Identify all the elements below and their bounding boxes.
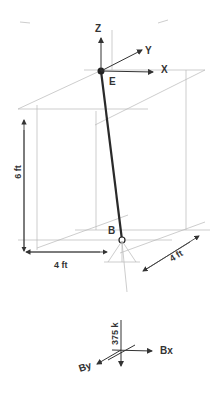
vertical-load-label: 375 k <box>110 321 120 345</box>
depth-dimension-label: 4 ft <box>168 248 185 264</box>
reaction-forces <box>97 320 152 366</box>
y-axis-label: Y <box>145 45 152 56</box>
height-dimension-label: 6 ft <box>13 165 23 179</box>
support-symbol <box>104 241 140 292</box>
x-axis-label: X <box>161 64 168 75</box>
point-E-label: E <box>109 76 116 87</box>
by-label: By <box>77 359 93 374</box>
width-dimension-label: 4 ft <box>54 260 68 270</box>
point-B-label: B <box>108 225 115 236</box>
frame-guide-lines <box>18 20 210 253</box>
bx-label: Bx <box>160 345 173 356</box>
z-axis-label: Z <box>95 23 101 34</box>
member-EB <box>101 71 122 240</box>
diagram-canvas: Z Y X E B 6 ft 4 ft 4 ft 375 k Bx By <box>0 0 218 396</box>
